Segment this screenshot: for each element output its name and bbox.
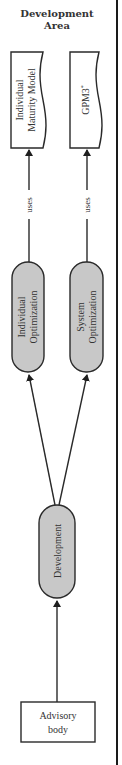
development-process[interactable]: Development: [39, 505, 75, 598]
advisory-body-line-2: body: [48, 724, 68, 735]
arrow-development-to-individual: [29, 375, 55, 505]
uses-label-right: uses: [82, 197, 92, 213]
individual-optimization-line-1: Individual: [16, 296, 27, 337]
uses-edge-right: uses: [82, 150, 92, 262]
system-optimization-line-2: Optimization: [87, 291, 98, 344]
gpm3-box[interactable]: GPM3*: [70, 52, 102, 148]
uses-edge-left: uses: [24, 150, 34, 262]
individual-maturity-model-line-1: Individual: [14, 79, 25, 120]
arrow-development-to-system: [59, 375, 87, 505]
system-optimization-line-1: System: [75, 302, 86, 332]
uses-label-left: uses: [24, 197, 34, 213]
gpm3-label: GPM3*: [80, 85, 91, 115]
individual-optimization-process[interactable]: Individual Optimization: [12, 262, 44, 372]
advisory-body-box[interactable]: Advisory body: [21, 702, 95, 742]
individual-maturity-model-line-2: Maturity Model: [26, 68, 37, 132]
individual-maturity-model-box[interactable]: Individual Maturity Model: [11, 52, 46, 148]
advisory-body-line-1: Advisory: [39, 710, 76, 721]
individual-optimization-line-2: Optimization: [28, 291, 39, 344]
development-label: Development: [52, 524, 63, 578]
flow-diagram: Individual Maturity Model GPM3* uses use…: [0, 0, 122, 765]
system-optimization-process[interactable]: System Optimization: [70, 262, 103, 372]
